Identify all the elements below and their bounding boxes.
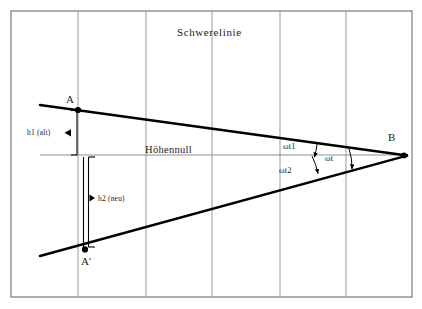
grid-lines xyxy=(78,11,346,297)
h1-bracket xyxy=(65,111,78,156)
diagram-canvas: Schwerelinie Höhennull A A' B h1 (alt) h… xyxy=(0,0,422,309)
geometry-figure xyxy=(0,0,422,309)
point-B-marker xyxy=(401,153,407,159)
angle-arc-wt xyxy=(349,149,352,169)
figure-frame xyxy=(11,11,412,297)
lower-line-ApB xyxy=(40,156,407,256)
point-Ap-marker xyxy=(82,246,88,252)
figure-title: Schwerelinie xyxy=(177,26,242,38)
angle-label-wt1: ωt1 xyxy=(283,141,296,151)
angle-label-wt2: ωt2 xyxy=(279,165,292,175)
upper-line-AB xyxy=(40,105,407,156)
point-label-B: B xyxy=(388,131,395,143)
angle-label-wt: ωt xyxy=(325,153,333,163)
point-label-A: A xyxy=(66,93,74,105)
h2-bracket xyxy=(84,157,96,247)
hoehennull-label: Höhennull xyxy=(145,144,192,155)
point-label-A-prime: A' xyxy=(81,255,91,267)
angle-arc-wt2 xyxy=(312,156,318,174)
measurement-label-h2: h2 (neu) xyxy=(98,194,125,203)
measurement-label-h1: h1 (alt) xyxy=(27,128,50,137)
